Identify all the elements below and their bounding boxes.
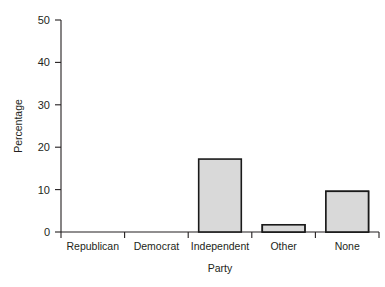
x-label-democrat: Democrat: [134, 240, 180, 252]
x-label-republican: Republican: [67, 240, 120, 252]
bar-other: [262, 225, 305, 232]
y-tick-label-0: 0: [44, 226, 50, 238]
x-label-independent: Independent: [191, 240, 249, 252]
y-tick-label-50: 50: [38, 14, 50, 26]
x-axis-title: Party: [208, 262, 233, 274]
y-tick-label-40: 40: [38, 56, 50, 68]
x-label-other: Other: [270, 240, 297, 252]
bar-republican: [199, 159, 242, 232]
y-tick-label-20: 20: [38, 141, 50, 153]
y-tick-label-30: 30: [38, 99, 50, 111]
bar-none: [326, 191, 369, 232]
x-label-none: None: [335, 240, 360, 252]
bar-chart-figure: 50 40 30 20 10 0 Republican Democ: [0, 0, 385, 287]
y-axis-title: Percentage: [12, 99, 24, 153]
chart-canvas: 50 40 30 20 10 0 Republican Democ: [0, 0, 385, 287]
y-tick-label-10: 10: [38, 184, 50, 196]
